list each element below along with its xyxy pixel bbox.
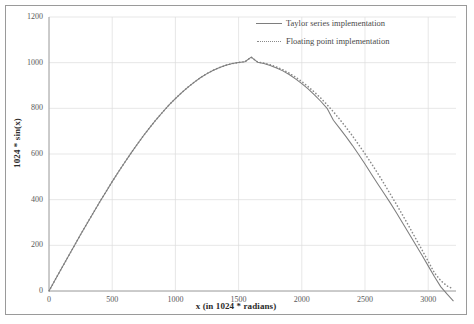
y-tick-label: 200 bbox=[11, 240, 43, 249]
y-tick-label: 800 bbox=[11, 103, 43, 112]
plot-area: 1024 * sin(x) x (in 1024 * radians) Tayl… bbox=[6, 6, 466, 314]
y-tick-label: 1000 bbox=[11, 58, 43, 67]
x-tick-label: 3000 bbox=[408, 295, 448, 304]
x-tick-label: 500 bbox=[92, 295, 132, 304]
legend-label-taylor: Taylor series implementation bbox=[286, 18, 385, 28]
legend-dotted-line-icon bbox=[256, 36, 282, 46]
legend-label-floating: Floating point implementation bbox=[286, 36, 389, 46]
x-tick-label: 1500 bbox=[219, 295, 259, 304]
y-tick-label: 400 bbox=[11, 195, 43, 204]
x-tick-label: 2000 bbox=[282, 295, 322, 304]
y-tick-label: 1200 bbox=[11, 12, 43, 21]
x-tick-label: 0 bbox=[29, 295, 69, 304]
legend-item-floating: Floating point implementation bbox=[256, 32, 456, 50]
y-tick-label: 600 bbox=[11, 149, 43, 158]
legend-solid-line-icon bbox=[256, 18, 282, 28]
y-tick-label: 0 bbox=[11, 286, 43, 295]
x-tick-label: 1000 bbox=[155, 295, 195, 304]
legend-item-taylor: Taylor series implementation bbox=[256, 14, 456, 32]
chart-legend: Taylor series implementation Floating po… bbox=[256, 14, 456, 54]
x-tick-label: 2500 bbox=[345, 295, 385, 304]
chart-figure: 1024 * sin(x) x (in 1024 * radians) Tayl… bbox=[5, 5, 467, 315]
